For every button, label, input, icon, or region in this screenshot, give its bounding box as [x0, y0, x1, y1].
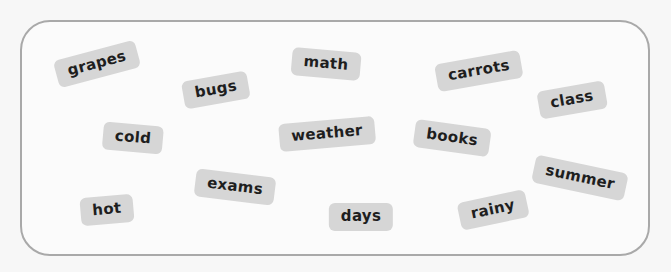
word-tile-math[interactable]: math: [291, 47, 362, 81]
word-tile-days[interactable]: days: [329, 203, 393, 231]
word-sort-stage: grapes bugs math carrots class cold weat…: [0, 0, 671, 272]
word-tile-hot[interactable]: hot: [79, 194, 134, 227]
word-tile-cold[interactable]: cold: [102, 121, 164, 154]
